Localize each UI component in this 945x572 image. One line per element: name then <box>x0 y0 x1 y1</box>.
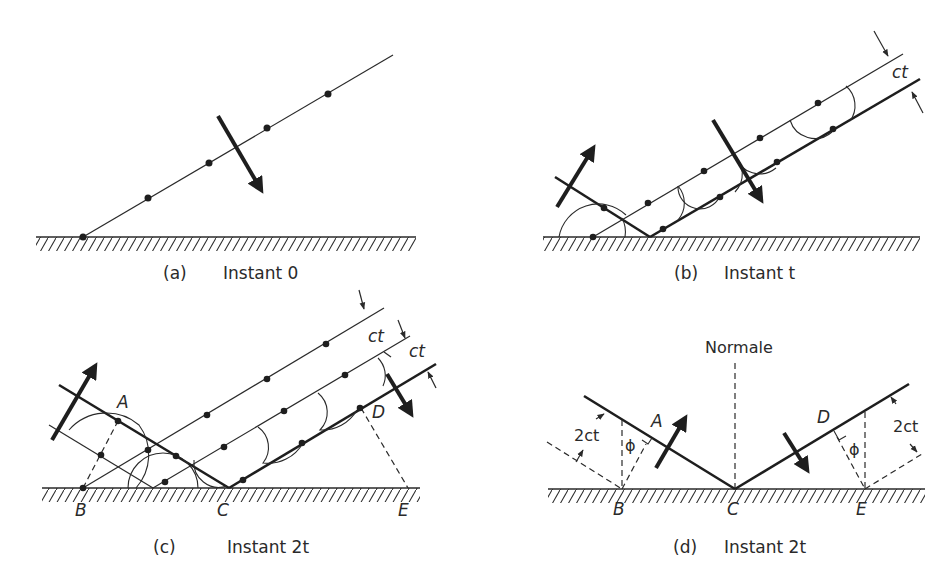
wavefront-point <box>145 195 152 202</box>
ground-hatching <box>36 237 416 251</box>
dimension-arrow-icon <box>359 290 364 309</box>
caption-text: Instant 0 <box>223 263 298 283</box>
incident-wavefront <box>650 79 920 237</box>
ground-hatching <box>543 237 920 251</box>
wavefront-point <box>323 341 330 348</box>
wavefront-point <box>206 160 213 167</box>
point-B-dot <box>80 485 87 492</box>
panel-d: Normale 2ct ϕ 2ct ϕ A B C D E (d) Instan… <box>547 338 925 557</box>
wavefront-point <box>701 168 708 175</box>
right-angle-mark-icon <box>642 438 652 444</box>
caption-letter: (d) <box>673 537 697 557</box>
reflected-wavefront-AC <box>584 396 735 489</box>
panel-c: ct ct A B C D E (c) Instant 2t <box>42 290 436 557</box>
caption-letter: (a) <box>163 263 187 283</box>
wavefront-point <box>757 135 764 142</box>
incident-wavefront-CD <box>735 384 909 489</box>
huygens-wavelet <box>69 413 149 488</box>
wavefront-point <box>162 479 169 486</box>
right-angle-mark-icon <box>834 431 846 440</box>
wavefront-point <box>98 452 105 459</box>
reflected-wavefront-AC <box>59 385 229 488</box>
dimension-arrow-icon <box>891 397 896 404</box>
dimension-arrow-icon <box>576 450 583 462</box>
wavefront-point <box>342 372 349 379</box>
wavefront-point <box>815 100 822 107</box>
wavefront-point <box>221 444 228 451</box>
huygens-wavelet <box>846 86 855 121</box>
wavefront-point <box>204 412 211 419</box>
dimension-label-ct: ct <box>892 62 909 82</box>
caption-letter: (c) <box>153 537 176 557</box>
wavefront-point <box>264 125 271 132</box>
incident-wavefront <box>83 55 393 237</box>
wavefront-point <box>240 477 247 484</box>
angle-label-phi: ϕ <box>625 436 636 455</box>
point-label-B: B <box>75 500 87 520</box>
huygens-wavelet <box>678 186 684 220</box>
huygens-reflection-figure: (a) Instant 0 <box>0 0 945 572</box>
point-label-D: D <box>372 402 385 422</box>
dimension-label-2ct: 2ct <box>574 426 599 445</box>
point-A-dot <box>115 418 122 425</box>
point-label-D: D <box>817 407 830 427</box>
reflected-propagation-arrow-icon <box>52 368 94 440</box>
caption-text: Instant 2t <box>227 537 309 557</box>
wavefront-point <box>299 440 306 447</box>
wavefront-point <box>264 376 271 383</box>
point-label-C: C <box>217 500 229 520</box>
wavefront-point <box>660 226 667 233</box>
caption-text: Instant t <box>724 263 796 283</box>
wavefront-point <box>590 234 597 241</box>
wavefront-point <box>717 194 724 201</box>
wavefront-point <box>80 234 87 241</box>
incident-propagation-arrow-icon <box>784 433 806 468</box>
dimension-tick <box>384 352 391 357</box>
point-label-E: E <box>398 500 409 520</box>
dimension-arrow-icon <box>398 320 405 338</box>
wavefront-point <box>601 205 608 212</box>
dimension-label-ct: ct <box>368 326 385 346</box>
dimension-label-2ct: 2ct <box>893 417 918 436</box>
caption-text: Instant 2t <box>724 537 806 557</box>
propagation-arrow-icon <box>218 116 260 188</box>
construction-line-B <box>547 442 622 489</box>
dimension-arrow-icon <box>428 372 436 388</box>
dimension-arrow-icon <box>874 31 888 56</box>
ground-hatching <box>42 488 420 502</box>
incident-propagation-arrow-icon <box>387 374 410 412</box>
huygens-wavelet <box>378 358 385 386</box>
dimension-arrow-icon <box>910 444 917 452</box>
caption-letter: (b) <box>674 263 698 283</box>
dimension-arrow-icon <box>912 92 923 113</box>
point-label-A: A <box>116 392 129 412</box>
point-label-B: B <box>613 499 625 519</box>
huygens-wavelet <box>790 120 832 138</box>
wavefront-point <box>325 91 332 98</box>
point-label-E: E <box>856 499 867 519</box>
huygens-wavelet <box>559 204 626 237</box>
previous-wavefront <box>593 54 903 237</box>
point-label-C: C <box>727 499 739 519</box>
construction-line-E <box>865 454 922 489</box>
normal-label: Normale <box>705 338 773 357</box>
dimension-arrow-icon <box>596 414 604 419</box>
dimension-label-ct: ct <box>409 341 426 361</box>
point-label-A: A <box>650 411 663 431</box>
wavefront-point <box>281 408 288 415</box>
panel-b: ct (b) Instant t <box>543 31 923 283</box>
wavefront-point <box>173 453 180 460</box>
point-D-dot <box>357 405 364 412</box>
wavefront-point <box>645 200 652 207</box>
wavefront-point <box>145 447 152 454</box>
panel-a: (a) Instant 0 <box>36 55 416 283</box>
wavefront-point <box>830 126 837 133</box>
angle-label-phi: ϕ <box>849 440 860 459</box>
wavefront-point <box>774 159 781 166</box>
